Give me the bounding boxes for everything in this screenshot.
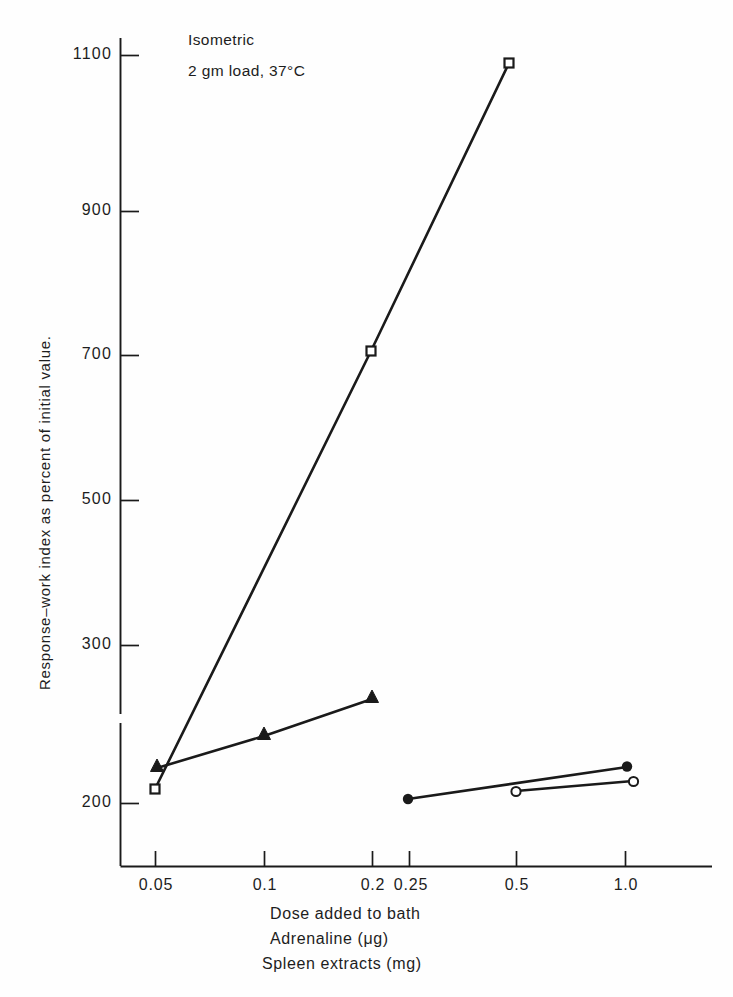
x-tick-label-1-0: 1.0 <box>595 876 657 894</box>
y-axis-label: Response–work index as percent of initia… <box>36 335 53 690</box>
series-open-circle <box>516 781 633 791</box>
marker-filled-triangle <box>151 759 164 772</box>
axis-lines <box>121 38 713 867</box>
series-open-circle-line <box>516 781 633 791</box>
marker-filled-triangle <box>366 690 379 703</box>
annotation-line-1: Isometric <box>188 31 254 49</box>
marker-filled-circle <box>403 794 413 804</box>
annotation-line-2: 2 gm load, 37°C <box>188 62 305 80</box>
x-tick-label-0-05: 0.05 <box>125 876 187 894</box>
x-tick-label-0-1: 0.1 <box>234 876 296 894</box>
marker-open-square <box>367 347 376 356</box>
y-tick-label-900: 900 <box>50 201 112 219</box>
marker-filled-circle <box>622 761 632 771</box>
x-caption-line-3: Spleen extracts (mg) <box>262 955 422 973</box>
marker-open-circle <box>629 777 638 786</box>
y-tick-label-1100: 1100 <box>50 45 112 63</box>
y-tick-label-500: 500 <box>50 490 112 508</box>
x-caption-line-1: Dose added to bath <box>270 905 420 923</box>
marker-open-square <box>505 59 514 68</box>
y-tick-label-700: 700 <box>50 345 112 363</box>
x-tick-label-0-5: 0.5 <box>486 876 548 894</box>
y-tick-label-200: 200 <box>50 793 112 811</box>
x-tick-label-0-25: 0.25 <box>380 876 442 894</box>
x-caption-line-2: Adrenaline (μg) <box>270 930 389 948</box>
marker-open-circle <box>511 787 520 796</box>
x-axis-ticks <box>156 851 626 867</box>
y-axis-ticks <box>121 56 140 804</box>
figure-panel: Isometric 2 gm load, 37°C 1100 900 700 5… <box>0 0 733 997</box>
series-open-square-line <box>155 63 509 789</box>
marker-open-square <box>151 785 160 794</box>
series-open-square <box>155 63 509 789</box>
y-tick-label-300: 300 <box>50 635 112 653</box>
